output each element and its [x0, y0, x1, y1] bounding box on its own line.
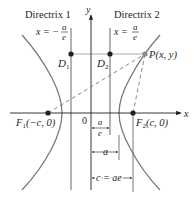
d1-label: D1 — [57, 57, 70, 71]
point-d1 — [68, 51, 73, 56]
x-axis-label: x — [183, 108, 189, 119]
f2-label: F2(c, 0) — [135, 117, 169, 130]
directrix-1-label: Directrix 1 — [25, 9, 71, 20]
y-axis-label: y — [85, 4, 91, 15]
p-label: P(x, y) — [148, 49, 177, 61]
directrix-2-equation: x = — [113, 26, 128, 37]
origin-label: 0 — [82, 115, 87, 126]
directrix-1-frac-num: a — [62, 22, 67, 32]
dim-a-label: a — [103, 146, 108, 157]
dim-a-over-e-den: e — [98, 128, 102, 138]
directrix-1-equation: x = − — [35, 26, 59, 37]
directrix-2-frac-den: e — [133, 32, 137, 42]
dim-a-over-e-num: a — [98, 117, 102, 127]
point-d2 — [107, 51, 112, 56]
hyperbola-diagram: Directrix 1 x = − a e Directrix 2 x = a … — [0, 0, 194, 206]
hyperbola-left-branch — [22, 35, 62, 190]
dim-c-label: c = ae — [96, 172, 122, 183]
point-f1 — [45, 110, 50, 115]
directrix-2-frac-num: a — [133, 22, 138, 32]
f1-label: F1(−c, 0) — [15, 117, 56, 130]
point-f2 — [130, 110, 135, 115]
directrix-2-label: Directrix 2 — [114, 9, 160, 20]
d2-label: D2 — [96, 57, 109, 71]
directrix-1-frac-den: e — [62, 32, 66, 42]
point-p — [142, 51, 147, 56]
